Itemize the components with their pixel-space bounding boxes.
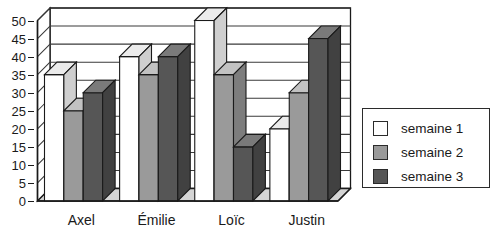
bar	[83, 80, 115, 201]
legend-label: semaine 2	[401, 145, 463, 160]
legend-item[interactable]: semaine 2	[373, 143, 463, 161]
legend: semaine 1semaine 2semaine 3	[362, 108, 490, 188]
legend-swatch-icon	[373, 145, 388, 160]
chart-root: 05101520253035404550 AxelÉmilieLoïcJusti…	[0, 0, 498, 236]
x-category-label: Loïc	[218, 212, 244, 228]
legend-swatch-icon	[373, 169, 388, 184]
x-category-label: Axel	[68, 212, 95, 228]
bar	[234, 134, 266, 201]
x-category-label: Émilie	[137, 212, 175, 228]
bar	[309, 26, 341, 201]
legend-item[interactable]: semaine 1	[373, 119, 463, 137]
legend-label: semaine 1	[401, 121, 463, 136]
legend-swatch-icon	[373, 121, 388, 136]
bar	[158, 44, 190, 201]
legend-label: semaine 3	[401, 169, 463, 184]
x-category-label: Justin	[288, 212, 325, 228]
legend-item[interactable]: semaine 3	[373, 167, 463, 185]
